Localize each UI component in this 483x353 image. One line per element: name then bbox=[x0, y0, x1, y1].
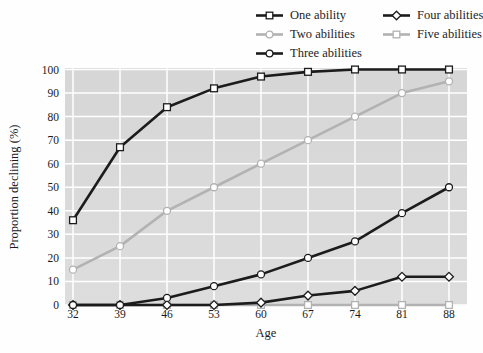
y-tick-label: 40 bbox=[48, 205, 60, 217]
y-tick-label: 60 bbox=[48, 158, 60, 170]
series-three-abilities-marker bbox=[70, 302, 77, 309]
x-tick-label: 81 bbox=[396, 308, 408, 320]
series-two-abilities-marker bbox=[446, 78, 453, 85]
x-tick-label: 67 bbox=[302, 308, 314, 320]
series-three-abilities-marker bbox=[211, 283, 218, 290]
legend-column-1: One abilityTwo abilitiesThree abilities bbox=[256, 6, 362, 63]
circle-legend-icon bbox=[256, 29, 283, 40]
series-two-abilities-marker bbox=[164, 207, 171, 214]
y-tick-label: 80 bbox=[48, 111, 60, 123]
series-three-abilities-marker bbox=[446, 184, 453, 191]
series-three-abilities-marker bbox=[117, 302, 124, 309]
series-one-ability-marker bbox=[70, 217, 77, 224]
series-two-abilities-marker bbox=[258, 160, 265, 167]
series-five-abilities-marker bbox=[446, 302, 453, 309]
diamond-legend-icon bbox=[383, 10, 410, 21]
y-tick-label: 10 bbox=[48, 275, 60, 287]
series-five-abilities-marker bbox=[399, 302, 406, 309]
legend-item-three-abilities: Three abilities bbox=[256, 44, 362, 63]
series-three-abilities-marker bbox=[305, 254, 312, 261]
series-one-ability-marker bbox=[164, 104, 171, 111]
series-two-abilities-marker bbox=[211, 184, 218, 191]
y-tick-label: 0 bbox=[53, 299, 59, 311]
y-tick-label: 70 bbox=[48, 134, 60, 146]
series-five-abilities-marker bbox=[305, 302, 312, 309]
series-one-ability-marker bbox=[446, 66, 453, 73]
series-one-ability-marker bbox=[305, 68, 312, 75]
legend-label: Two abilities bbox=[290, 27, 355, 42]
series-two-abilities-marker bbox=[70, 266, 77, 273]
series-one-ability-marker bbox=[258, 73, 265, 80]
legend-item-two-abilities: Two abilities bbox=[256, 25, 362, 44]
series-three-abilities-marker bbox=[352, 238, 359, 245]
series-three-abilities-marker bbox=[164, 294, 171, 301]
y-tick-label: 50 bbox=[48, 181, 60, 193]
legend-item-five-abilities: Five abilities bbox=[383, 25, 483, 44]
square-legend-icon bbox=[383, 29, 410, 40]
x-tick-label: 88 bbox=[443, 308, 455, 320]
x-tick-label: 60 bbox=[255, 308, 267, 320]
series-three-abilities-marker bbox=[258, 271, 265, 278]
series-two-abilities-marker bbox=[117, 243, 124, 250]
circle-legend-icon bbox=[256, 48, 283, 59]
series-one-ability-marker bbox=[117, 144, 124, 151]
y-tick-label: 90 bbox=[48, 87, 60, 99]
y-tick-label: 30 bbox=[48, 228, 60, 240]
series-two-abilities-marker bbox=[399, 90, 406, 97]
y-axis-label: Proportion declining (%) bbox=[7, 125, 22, 250]
y-tick-label: 100 bbox=[42, 64, 60, 76]
legend-item-four-abilities: Four abilities bbox=[383, 6, 483, 25]
chart-figure: 0102030405060708090100323946536067748188… bbox=[0, 0, 483, 353]
series-five-abilities-marker bbox=[352, 302, 359, 309]
legend-label: Five abilities bbox=[417, 27, 482, 42]
x-tick-label: 74 bbox=[349, 308, 361, 320]
x-axis-label: Age bbox=[65, 326, 467, 341]
y-tick-label: 20 bbox=[48, 252, 60, 264]
line-chart-canvas: 0102030405060708090100323946536067748188 bbox=[0, 0, 483, 353]
series-two-abilities-marker bbox=[305, 137, 312, 144]
series-two-abilities-marker bbox=[352, 113, 359, 120]
legend-item-one-ability: One ability bbox=[256, 6, 362, 25]
legend-label: Four abilities bbox=[417, 8, 483, 23]
series-one-ability-marker bbox=[399, 66, 406, 73]
series-one-ability-marker bbox=[211, 85, 218, 92]
legend-column-2: Four abilitiesFive abilities bbox=[383, 6, 483, 44]
series-one-ability-marker bbox=[352, 66, 359, 73]
legend-label: Three abilities bbox=[290, 46, 362, 61]
legend-label: One ability bbox=[290, 8, 346, 23]
square-legend-icon bbox=[256, 10, 283, 21]
series-three-abilities-marker bbox=[399, 210, 406, 217]
